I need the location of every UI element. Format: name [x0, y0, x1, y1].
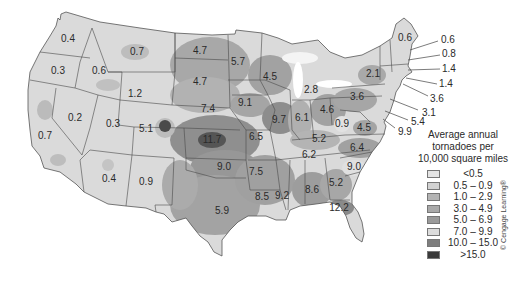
state-value-label: 9.2 — [275, 191, 289, 201]
state-value-label: 5.2 — [312, 134, 326, 144]
state-value-label: 4.6 — [320, 105, 334, 115]
map-legend: Average annual tornadoes per 10,000 squa… — [413, 129, 513, 260]
callout-value-label: 9.9 — [398, 127, 412, 137]
legend-item: 3.0 – 4.9 — [413, 203, 513, 215]
state-value-label: 7.5 — [249, 167, 263, 177]
state-value-label: 0.3 — [51, 66, 65, 76]
legend-item: 7.0 – 9.9 — [413, 226, 513, 238]
state-value-label: 9.7 — [272, 115, 286, 125]
legend-title-line: tornadoes per — [413, 141, 513, 153]
legend-swatch — [427, 193, 440, 201]
legend-item: 10.0 – 15.0 — [413, 237, 513, 249]
state-value-label: 7.4 — [201, 104, 215, 114]
state-value-label: 1.2 — [128, 89, 142, 99]
state-value-label: 5.1 — [139, 124, 153, 134]
legend-swatch — [427, 170, 440, 178]
state-value-label: 8.5 — [255, 192, 269, 202]
state-value-label: 0.6 — [92, 66, 106, 76]
legend-item: 0.5 – 0.9 — [413, 180, 513, 192]
state-value-label: 5.7 — [231, 57, 245, 67]
state-value-label: 6.1 — [295, 113, 309, 123]
state-value-label: 4.5 — [357, 123, 371, 133]
state-value-label: 12.2 — [329, 203, 348, 213]
legend-label: <0.5 — [444, 168, 502, 179]
state-value-label: 0.7 — [38, 131, 52, 141]
legend-item: 5.0 – 6.9 — [413, 214, 513, 226]
state-value-label: 4.7 — [193, 46, 207, 56]
state-value-label: 11.7 — [203, 135, 222, 145]
legend-label: 1.0 – 2.9 — [444, 191, 502, 202]
legend-swatch — [427, 205, 440, 213]
state-value-label: 9.0 — [217, 162, 231, 172]
state-value-label: 6.4 — [350, 143, 364, 153]
legend-item: >15.0 — [413, 249, 513, 261]
state-value-label: 0.2 — [68, 113, 82, 123]
state-value-label: 0.9 — [335, 119, 349, 129]
state-value-label: 2.1 — [366, 69, 380, 79]
state-value-label: 0.3 — [106, 119, 120, 129]
legend-swatch — [427, 216, 440, 224]
state-value-label: 4.5 — [263, 72, 277, 82]
state-value-label: 6.5 — [249, 132, 263, 142]
state-value-label: 9.0 — [347, 162, 361, 172]
state-value-label: 6.2 — [302, 150, 316, 160]
legend-label: 5.0 – 6.9 — [444, 214, 502, 225]
callout-value-label: 0.8 — [442, 49, 456, 59]
callout-value-label: 0.6 — [441, 35, 455, 45]
copyright-notice: © Cengage Learning® — [500, 180, 507, 250]
legend-swatch — [427, 251, 440, 259]
callout-value-label: 1.4 — [442, 64, 456, 74]
state-value-label: 9.1 — [238, 98, 252, 108]
legend-title-line: 10,000 square miles — [413, 153, 513, 165]
legend-label: >15.0 — [444, 249, 502, 260]
legend-item: <0.5 — [413, 168, 513, 180]
state-value-label: 0.4 — [61, 34, 75, 44]
legend-label: 3.0 – 4.9 — [444, 203, 502, 214]
state-value-label: 3.6 — [350, 92, 364, 102]
state-value-label: 0.7 — [130, 47, 144, 57]
legend-title-line: Average annual — [413, 129, 513, 141]
legend-label: 7.0 – 9.9 — [444, 226, 502, 237]
legend-swatch — [427, 228, 440, 236]
callout-value-label: 5.4 — [411, 117, 425, 127]
state-value-label: 0.4 — [102, 174, 116, 184]
state-value-label: 4.7 — [193, 77, 207, 87]
callout-value-label: 3.6 — [430, 94, 444, 104]
state-value-label: 0.9 — [139, 177, 153, 187]
state-value-label: 5.9 — [215, 206, 229, 216]
state-value-label: 5.2 — [329, 178, 343, 188]
legend-label: 0.5 – 0.9 — [444, 180, 502, 191]
legend-item: 1.0 – 2.9 — [413, 191, 513, 203]
state-value-label: 8.6 — [305, 185, 319, 195]
legend-swatch — [427, 239, 440, 247]
legend-swatch — [427, 182, 440, 190]
callout-value-label: 1.4 — [439, 79, 453, 89]
state-value-label: 0.6 — [398, 33, 412, 43]
legend-title: Average annual tornadoes per 10,000 squa… — [413, 129, 513, 165]
state-value-label: 2.8 — [304, 85, 318, 95]
legend-label: 10.0 – 15.0 — [444, 237, 502, 248]
